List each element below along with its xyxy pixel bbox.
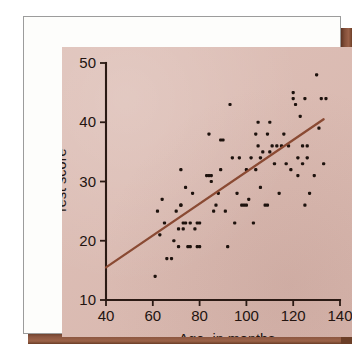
data-point: [303, 97, 306, 100]
data-point: [301, 162, 304, 165]
data-point: [189, 245, 192, 248]
data-point: [296, 174, 299, 177]
data-point: [179, 168, 182, 171]
data-point: [306, 156, 309, 159]
data-point: [308, 192, 311, 195]
data-point: [163, 221, 166, 224]
data-point: [303, 204, 306, 207]
data-point: [259, 186, 262, 189]
data-point: [292, 91, 295, 94]
data-point: [198, 221, 201, 224]
x-tick-label: 120: [281, 307, 306, 324]
x-tick-label: 140: [327, 307, 352, 324]
data-point: [289, 168, 292, 171]
data-point: [177, 227, 180, 230]
data-point: [278, 192, 281, 195]
scatter-plot: 1020304050 406080100120140 Age, in month…: [62, 47, 352, 337]
data-point: [161, 198, 164, 201]
data-point: [299, 115, 302, 118]
y-tick-label: 10: [79, 291, 96, 308]
data-point: [189, 221, 192, 224]
data-point: [235, 192, 238, 195]
data-point: [252, 221, 255, 224]
x-tick-label: 40: [98, 307, 115, 324]
data-point: [254, 168, 257, 171]
data-point: [156, 210, 159, 213]
x-tick-label: 100: [234, 307, 259, 324]
data-point: [158, 233, 161, 236]
data-point: [261, 150, 264, 153]
data-point: [172, 239, 175, 242]
figure-plate: 1020304050 406080100120140 Age, in month…: [62, 47, 352, 337]
data-point: [233, 221, 236, 224]
data-point: [257, 144, 260, 147]
data-point: [170, 257, 173, 260]
data-point: [313, 174, 316, 177]
data-point: [317, 127, 320, 130]
data-point: [154, 275, 157, 278]
data-point: [247, 198, 250, 201]
data-point: [184, 186, 187, 189]
data-point: [257, 121, 260, 124]
photographed-page: 1020304050 406080100120140 Age, in month…: [0, 0, 360, 350]
data-point: [207, 133, 210, 136]
data-point: [282, 133, 285, 136]
data-point: [296, 156, 299, 159]
data-point: [268, 150, 271, 153]
data-point: [231, 156, 234, 159]
data-point: [306, 144, 309, 147]
data-point: [254, 133, 257, 136]
data-point: [210, 180, 213, 183]
y-axis-ticks: 1020304050: [79, 54, 106, 308]
data-point: [245, 204, 248, 207]
data-point: [179, 204, 182, 207]
paper-sheet: 1020304050 406080100120140 Age, in month…: [23, 16, 341, 334]
y-tick-label: 30: [79, 173, 96, 190]
data-point: [275, 144, 278, 147]
x-axis-title: Age, in months: [179, 331, 276, 337]
data-point: [177, 245, 180, 248]
data-point: [301, 144, 304, 147]
data-point: [184, 221, 187, 224]
data-point: [249, 156, 252, 159]
data-point: [320, 97, 323, 100]
data-point: [268, 121, 271, 124]
data-point: [212, 210, 215, 213]
data-point: [324, 97, 327, 100]
y-tick-label: 40: [79, 113, 96, 130]
data-point: [175, 210, 178, 213]
data-point: [266, 133, 269, 136]
y-tick-label: 50: [79, 54, 96, 71]
data-point: [226, 245, 229, 248]
data-point: [228, 103, 231, 106]
data-point: [259, 156, 262, 159]
data-point: [182, 227, 185, 230]
data-point: [322, 162, 325, 165]
data-point: [191, 192, 194, 195]
data-point: [315, 73, 318, 76]
y-tick-label: 20: [79, 232, 96, 249]
data-point: [210, 174, 213, 177]
data-point: [221, 138, 224, 141]
data-point: [271, 144, 274, 147]
data-point: [193, 227, 196, 230]
x-tick-label: 80: [191, 307, 208, 324]
data-point: [273, 162, 276, 165]
data-point: [198, 245, 201, 248]
data-point: [224, 210, 227, 213]
data-point: [219, 168, 222, 171]
data-point: [292, 97, 295, 100]
data-point: [294, 103, 297, 106]
data-point: [214, 204, 217, 207]
y-axis-title: Test score: [62, 148, 69, 214]
data-point: [165, 257, 168, 260]
x-tick-label: 60: [144, 307, 161, 324]
data-point: [285, 162, 288, 165]
regression-line: [106, 119, 324, 267]
data-point: [238, 156, 241, 159]
data-point: [266, 204, 269, 207]
x-axis-ticks: 406080100120140: [98, 300, 352, 324]
